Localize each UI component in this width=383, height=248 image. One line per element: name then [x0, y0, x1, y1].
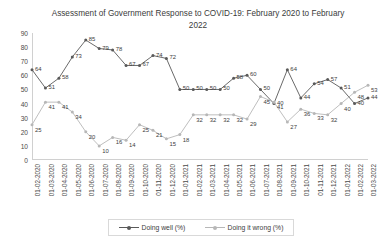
data-point-marker [192, 88, 195, 91]
data-point-marker [84, 130, 87, 133]
chart-legend: Doing well (%)Doing it wrong (%) [108, 219, 294, 236]
data-point-marker [299, 96, 302, 99]
legend-item[interactable]: Doing well (%) [119, 224, 186, 231]
y-axis-tick-label: 30 [21, 114, 28, 121]
chart-title: Assessment of Government Response to COV… [48, 8, 348, 31]
x-axis-tick-label: 01-04-2020 [61, 164, 68, 196]
data-point-marker [353, 91, 356, 94]
x-axis-tick-label: 01-11-2021 [317, 164, 324, 196]
y-axis-tick-label: 20 [21, 128, 28, 135]
chart-container: Assessment of Government Response to COV… [0, 0, 383, 248]
data-point-marker [178, 133, 181, 136]
x-axis-tick-label: 01-05-2020 [75, 164, 82, 196]
data-point-marker [84, 39, 87, 42]
data-point-marker [111, 136, 114, 139]
data-point-marker [259, 88, 262, 91]
data-point-marker [44, 101, 47, 104]
data-point-marker [125, 139, 128, 142]
data-point-marker [286, 120, 289, 123]
data-point-marker [299, 108, 302, 111]
data-point-marker [340, 102, 343, 105]
x-axis-tick-label: 01-03-2020 [48, 164, 55, 196]
data-point-marker [246, 74, 249, 77]
data-point-marker [165, 137, 168, 140]
x-axis-tick-label: 01-06-2020 [88, 164, 95, 196]
y-axis-tick-label: 0 [24, 157, 28, 164]
data-point-marker [353, 102, 356, 105]
x-axis-tick-label: 01-12-2021 [330, 164, 337, 196]
data-point-marker [111, 48, 114, 51]
y-axis-tick-label: 60 [21, 72, 28, 79]
y-axis-tick-label: 40 [21, 100, 28, 107]
data-point-marker [138, 123, 141, 126]
data-point-marker [313, 112, 316, 115]
data-point-marker [286, 68, 289, 71]
x-axis-tick-label: 01-06-2021 [249, 164, 256, 196]
data-point-marker [205, 113, 208, 116]
x-axis-tick-label: 01-01-2021 [182, 164, 189, 196]
legend-label: Doing well (%) [142, 224, 186, 231]
x-axis-tick-label: 01-08-2020 [115, 164, 122, 196]
x-axis-tick-label: 01-04-2021 [223, 164, 230, 196]
data-point-marker [31, 123, 34, 126]
data-point-marker [44, 87, 47, 90]
legend-swatch-icon [205, 224, 225, 231]
data-point-marker [259, 95, 262, 98]
plot-area: 0102030405060708090 01-02-202001-03-2020… [32, 33, 368, 160]
data-point-marker [219, 88, 222, 91]
data-point-marker [138, 64, 141, 67]
data-point-marker [232, 77, 235, 80]
x-axis-tick-label: 01-09-2020 [128, 164, 135, 196]
data-point-marker [165, 57, 168, 60]
data-point-marker [192, 113, 195, 116]
data-point-marker [367, 84, 370, 87]
x-axis-tick-label: 01-03-2021 [209, 164, 216, 196]
x-axis-tick-label: 01-12-2020 [169, 164, 176, 196]
data-point-marker [71, 55, 74, 58]
legend-swatch-icon [119, 224, 139, 231]
data-point-value: 44 [371, 94, 378, 100]
data-point-marker [71, 111, 74, 114]
y-axis-tick-label: 10 [21, 142, 28, 149]
x-axis-tick-label: 01-11-2020 [155, 164, 162, 196]
data-point-marker [232, 113, 235, 116]
data-point-marker [57, 101, 60, 104]
data-point-marker [340, 87, 343, 90]
x-axis-tick-label: 01-07-2020 [102, 164, 109, 196]
x-axis-tick-label: 01-09-2021 [290, 164, 297, 196]
series-lines [32, 33, 368, 160]
x-axis-tick-label: 01-02-2020 [34, 164, 41, 196]
data-point-marker [31, 68, 34, 71]
data-point-marker [98, 47, 101, 50]
data-point-marker [151, 129, 154, 132]
data-point-marker [178, 88, 181, 91]
series-line [32, 40, 368, 103]
x-axis-tick-label: 01-10-2020 [142, 164, 149, 196]
data-point-marker [367, 96, 370, 99]
x-axis-tick-label: 01-08-2021 [276, 164, 283, 196]
data-point-marker [326, 78, 329, 81]
data-point-marker [151, 54, 154, 57]
x-axis-tick-label: 01-02-2021 [196, 164, 203, 196]
data-point-marker [98, 144, 101, 147]
data-point-marker [272, 101, 275, 104]
x-axis-tick-label: 01-07-2021 [263, 164, 270, 196]
data-point-marker [219, 113, 222, 116]
data-point-marker [246, 118, 249, 121]
legend-label: Doing it wrong (%) [228, 224, 284, 231]
data-point-value: 53 [371, 87, 378, 93]
y-axis-tick-label: 90 [21, 30, 28, 37]
data-point-marker [326, 113, 329, 116]
series-line [32, 85, 368, 146]
x-axis-tick-label: 01-10-2021 [303, 164, 310, 196]
y-axis-tick-label: 50 [21, 86, 28, 93]
legend-item[interactable]: Doing it wrong (%) [205, 224, 284, 231]
x-axis-tick-label: 01-01-2022 [344, 164, 351, 196]
y-axis-tick-label: 80 [21, 44, 28, 51]
data-point-marker [57, 77, 60, 80]
data-point-marker [313, 82, 316, 85]
data-point-marker [205, 88, 208, 91]
x-axis-tick-label: 01-03-2022 [370, 164, 377, 196]
y-axis-tick-label: 70 [21, 58, 28, 65]
data-point-marker [125, 64, 128, 67]
